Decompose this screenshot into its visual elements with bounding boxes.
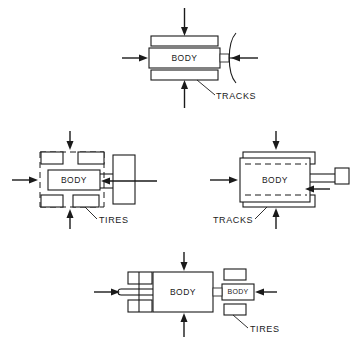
- callout-tracks-middle-right: TRACKS: [213, 215, 253, 225]
- coupler-stub-top: [220, 54, 229, 62]
- body-label-middle-left: BODY: [61, 175, 87, 185]
- arrow-bt-right-in: [255, 289, 277, 296]
- tire-bottom-rear-upper: [224, 269, 246, 280]
- callout-tires-middle-left: TIRES: [99, 215, 129, 225]
- arrow-bt-top-down: [181, 252, 188, 271]
- tire-front-left: [41, 152, 63, 164]
- leader-tires-middle-left: [85, 207, 97, 219]
- tire-front-right: [78, 152, 104, 164]
- arrow-top-down: [181, 8, 188, 36]
- diagram-top-tracked-front: BODY TRACKS: [122, 8, 258, 108]
- body-label-middle-right: BODY: [262, 175, 288, 185]
- tire-rear-right: [73, 195, 99, 207]
- arrow-top-left-in: [122, 55, 148, 62]
- arrow-bt-left-in: [94, 289, 120, 296]
- tire-bottom-front-lower: [128, 300, 152, 312]
- arrow-top-right-in: [231, 55, 258, 62]
- body-label-top: BODY: [171, 53, 197, 63]
- body-label-bottom-secondary: BODY: [227, 288, 248, 295]
- body-label-bottom-main: BODY: [170, 287, 196, 297]
- leader-tires-bottom: [233, 315, 248, 328]
- arrow-ml-bottom-up: [67, 209, 74, 229]
- leader-tracks-middle-right: [255, 207, 267, 219]
- arrow-mr-left-in: [210, 177, 238, 184]
- coupler-stub-bottom: [213, 288, 222, 296]
- diagram-middle-right-tracked: BODY TRACKS: [210, 131, 349, 229]
- boom-end-block: [335, 168, 349, 184]
- arrow-ml-left-in: [12, 177, 38, 184]
- diagram-canvas: BODY TRACKS: [0, 0, 356, 358]
- callout-tires-bottom: TIRES: [250, 324, 280, 334]
- tire-rear-left: [41, 195, 63, 207]
- right-module-block: [113, 155, 135, 204]
- callout-tracks-top: TRACKS: [216, 91, 256, 101]
- diagram-bottom-wheeled-coupled: BODY BODY T: [94, 252, 280, 337]
- arrow-bt-bottom-up: [181, 313, 188, 337]
- track-upper: [151, 36, 218, 46]
- arrow-ml-top-down: [67, 131, 74, 150]
- arrow-mr-top-down: [273, 131, 280, 150]
- leader-tracks-top: [197, 80, 215, 95]
- arrow-top-bottom-up: [181, 80, 188, 108]
- diagram-middle-left-wheeled: BODY TIRES: [12, 131, 157, 229]
- track-lower: [151, 70, 218, 80]
- vehicle-schematics-figure: BODY TRACKS: [0, 0, 356, 358]
- tire-bottom-rear-lower: [224, 304, 246, 315]
- arrow-mr-bottom-up: [273, 208, 280, 229]
- tire-bottom-front-upper: [128, 272, 152, 284]
